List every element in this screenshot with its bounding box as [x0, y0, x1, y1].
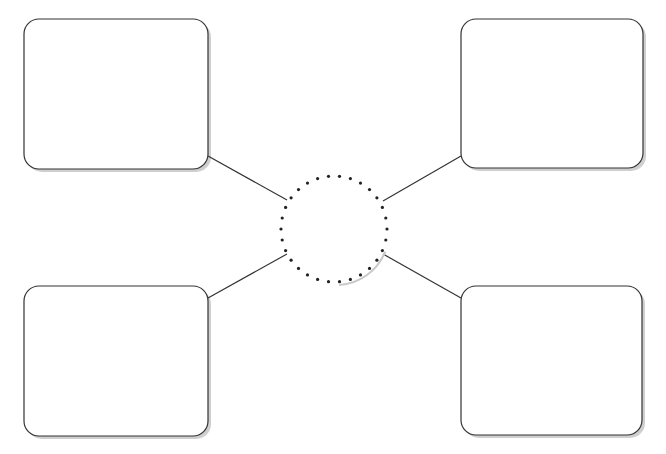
concept-web-diagram: [0, 0, 666, 454]
circle-dot: [384, 216, 387, 219]
circle-dot: [338, 175, 341, 178]
text-box-bottom-left[interactable]: [24, 286, 208, 436]
circle-dot: [385, 227, 388, 230]
circle-dot: [384, 238, 387, 241]
circle-dot: [306, 182, 309, 185]
connector-line-top-right: [383, 156, 461, 201]
circle-dot: [349, 177, 352, 180]
circle-dot: [327, 175, 330, 178]
circle-dot: [375, 196, 378, 199]
center-circle-fill[interactable]: [281, 176, 387, 282]
text-box-bottom-right[interactable]: [461, 286, 642, 435]
circle-dot: [281, 216, 284, 219]
circle-dot: [327, 280, 330, 283]
connector-line-top-left: [208, 156, 287, 200]
connector-line-bottom-left: [208, 254, 287, 298]
connector-line-bottom-right: [383, 254, 461, 298]
circle-dot: [284, 206, 287, 209]
circle-dot: [316, 177, 319, 180]
circle-dot: [290, 196, 293, 199]
circle-dot: [281, 238, 284, 241]
circle-dot: [349, 278, 352, 281]
text-box-top-right[interactable]: [461, 19, 643, 168]
circle-dot: [368, 267, 371, 270]
circle-dot: [297, 188, 300, 191]
circle-dot: [381, 249, 384, 252]
circle-dot: [306, 273, 309, 276]
circle-dot: [279, 227, 282, 230]
center-circle: [279, 175, 389, 285]
circle-dot: [359, 273, 362, 276]
circle-dot: [359, 182, 362, 185]
circle-dot: [316, 278, 319, 281]
circle-dot: [284, 249, 287, 252]
circle-dot: [297, 267, 300, 270]
circle-dot: [338, 280, 341, 283]
text-box-top-left[interactable]: [24, 19, 208, 169]
circle-dot: [290, 259, 293, 262]
circle-dot: [381, 206, 384, 209]
circle-dot: [368, 188, 371, 191]
circle-dot: [375, 259, 378, 262]
